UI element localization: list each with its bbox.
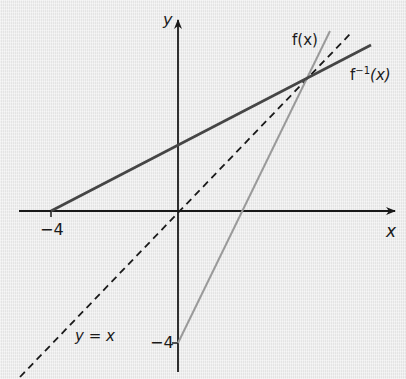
f-label: f(x) bbox=[292, 33, 318, 48]
f-inverse-line bbox=[51, 45, 371, 211]
f-inverse-sup: −1 bbox=[355, 65, 370, 76]
f-inverse-arg: (x) bbox=[370, 66, 391, 84]
f-inverse-label: f−1(x) bbox=[350, 66, 391, 83]
y-tick-label: −4 bbox=[150, 335, 174, 351]
graph-plot bbox=[0, 0, 406, 379]
y-axis-label: y bbox=[163, 12, 172, 28]
x-axis-label: x bbox=[386, 223, 396, 240]
identity-label: y = x bbox=[75, 329, 115, 344]
x-tick-label: −4 bbox=[40, 222, 64, 238]
